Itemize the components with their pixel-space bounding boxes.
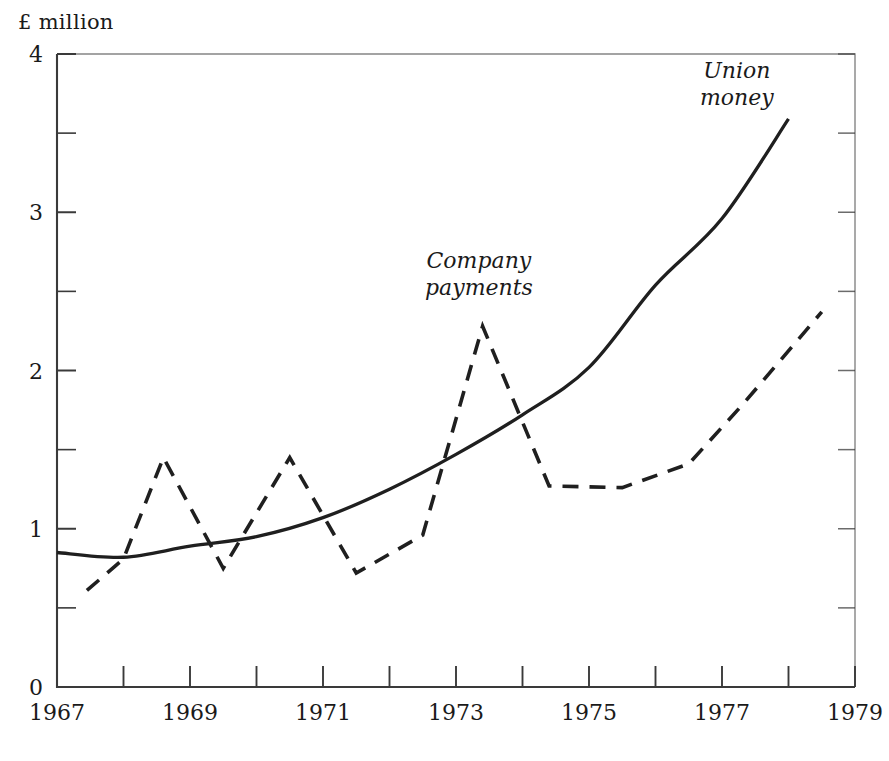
- y-tick-label: 2: [0, 358, 43, 383]
- series-annotation-company-payments-line2: payments: [425, 275, 533, 302]
- y-tick-label: 3: [0, 200, 43, 225]
- series-line-company-payments: [87, 312, 822, 591]
- x-tick-label: 1975: [561, 700, 617, 725]
- x-tick-label: 1971: [295, 700, 351, 725]
- axis-spine-left-bottom: [57, 54, 855, 687]
- series-annotation-union-money: Union money: [700, 58, 774, 112]
- axis-ticks: [57, 54, 855, 687]
- series-annotation-union-money-line1: Union: [700, 58, 774, 85]
- series-line-union-money: [57, 119, 789, 558]
- y-tick-label: 0: [0, 675, 43, 700]
- x-tick-label: 1979: [827, 700, 883, 725]
- x-tick-label: 1967: [29, 700, 85, 725]
- chart-figure: £ million Union money Company payments 0…: [0, 0, 889, 761]
- x-tick-label: 1973: [428, 700, 484, 725]
- axis-frame-top-right: [57, 54, 855, 687]
- x-tick-label: 1977: [694, 700, 750, 725]
- y-tick-label: 4: [0, 42, 43, 67]
- x-tick-label: 1969: [162, 700, 218, 725]
- series-annotation-company-payments: Company payments: [425, 248, 533, 302]
- y-axis-unit-label: £ million: [18, 10, 114, 34]
- y-tick-label: 1: [0, 516, 43, 541]
- axis-lines: [57, 54, 855, 687]
- series-annotation-union-money-line2: money: [700, 85, 774, 112]
- plot-area: [0, 0, 889, 761]
- series-annotation-company-payments-line1: Company: [425, 248, 533, 275]
- data-series: [57, 119, 822, 591]
